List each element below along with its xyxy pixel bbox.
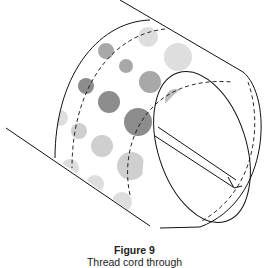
stitch-line-inner [128,81,232,195]
cord-top [158,127,236,180]
figure-label: Figure 9 [0,244,269,256]
fabric-tube-illustration [0,0,269,240]
cord-end [228,177,242,188]
polka-dots [52,27,192,212]
stitch-line-rim [200,82,255,222]
cord-bottom [155,136,233,187]
figure-caption: Thread cord through [0,256,269,268]
band-back-rim [160,72,261,228]
